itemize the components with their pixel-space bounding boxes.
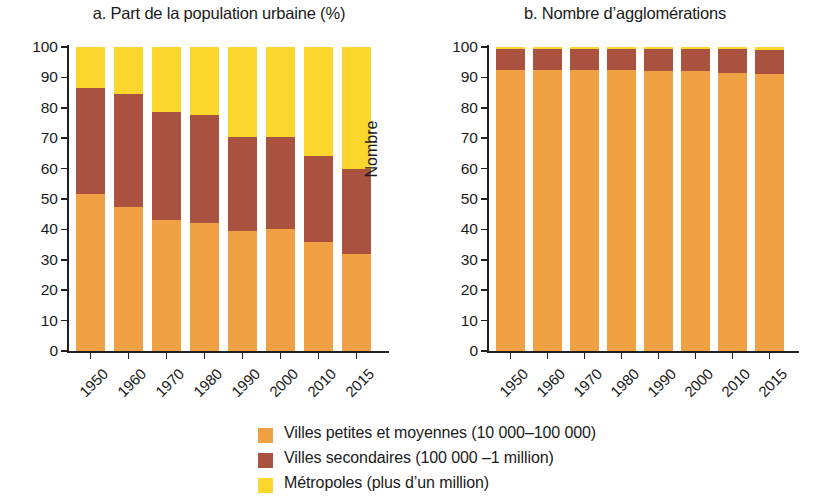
bar-segment-villes-petites-moyennes (266, 229, 295, 351)
bar-segment-villes-petites-moyennes (755, 74, 784, 351)
y-tick-label-10: 10 (461, 313, 478, 329)
y-tick-label-0: 0 (49, 343, 58, 359)
y-tick-70 (481, 137, 488, 139)
bar-segment-metropoles (76, 47, 105, 88)
bar-segment-metropoles (266, 47, 295, 137)
bar-2015 (755, 47, 784, 351)
panel-a-x-axis-line (67, 351, 389, 353)
bar-segment-villes-petites-moyennes (76, 194, 105, 351)
y-tick-label-100: 100 (32, 39, 58, 55)
y-tick-20 (481, 289, 488, 291)
bar-segment-villes-secondaires (570, 49, 599, 70)
bar-1960 (114, 47, 143, 351)
bar-segment-villes-secondaires (681, 49, 710, 71)
y-tick-20 (61, 289, 68, 291)
y-tick-label-20: 20 (461, 282, 478, 298)
y-tick-40 (61, 229, 68, 231)
bar-segment-villes-petites-moyennes (304, 242, 333, 351)
x-tick-1990 (242, 351, 244, 359)
bar-segment-metropoles (190, 47, 219, 115)
x-tick-1980 (204, 351, 206, 359)
y-tick-label-90: 90 (461, 70, 478, 86)
bar-2010 (718, 47, 747, 351)
chart-legend: Villes petites et moyennes (10 000–100 0… (0, 424, 820, 499)
y-tick-label-20: 20 (41, 282, 58, 298)
bar-segment-villes-secondaires (533, 49, 562, 70)
bar-segment-villes-secondaires (190, 115, 219, 223)
y-tick-label-80: 80 (41, 100, 58, 116)
y-tick-label-40: 40 (461, 222, 478, 238)
panel-a-plot-area: 0102030405060708090100195019601970198019… (68, 47, 388, 351)
y-tick-10 (61, 320, 68, 322)
bar-1980 (190, 47, 219, 351)
chart-panel-a: a. Part de la population urbaine (%) Par… (0, 0, 420, 420)
y-tick-label-70: 70 (461, 130, 478, 146)
figure: a. Part de la population urbaine (%) Par… (0, 0, 820, 502)
bar-segment-metropoles (304, 47, 333, 156)
bar-segment-villes-secondaires (228, 137, 257, 231)
legend-item: Métropoles (plus d’un million) (0, 474, 820, 499)
x-tick-2015 (356, 351, 358, 359)
y-tick-50 (481, 198, 488, 200)
legend-swatch-icon (258, 453, 273, 468)
bar-segment-villes-petites-moyennes (718, 73, 747, 351)
y-tick-40 (481, 229, 488, 231)
bar-1950 (496, 47, 525, 351)
bar-segment-villes-petites-moyennes (190, 223, 219, 351)
bar-2000 (266, 47, 295, 351)
x-tick-2000 (695, 351, 697, 359)
bar-segment-villes-secondaires (644, 49, 673, 71)
y-tick-60 (61, 168, 68, 170)
x-tick-1980 (621, 351, 623, 359)
bar-1970 (570, 47, 599, 351)
panel-b-x-axis-line (487, 351, 799, 353)
bar-segment-metropoles (152, 47, 181, 112)
y-tick-label-10: 10 (41, 313, 58, 329)
x-tick-1990 (658, 351, 660, 359)
bar-segment-villes-secondaires (266, 137, 295, 230)
bar-segment-villes-secondaires (607, 49, 636, 70)
y-tick-label-0: 0 (469, 343, 478, 359)
y-tick-label-50: 50 (41, 191, 58, 207)
y-tick-70 (61, 137, 68, 139)
y-tick-label-50: 50 (461, 191, 478, 207)
bar-1980 (607, 47, 636, 351)
y-tick-90 (61, 77, 68, 79)
legend-swatch-icon (258, 478, 273, 493)
panel-b-y-axis-title: Nombre (363, 89, 381, 209)
panel-a-title: a. Part de la population urbaine (%) (0, 4, 420, 23)
y-tick-30 (481, 259, 488, 261)
y-tick-label-90: 90 (41, 70, 58, 86)
x-tick-2015 (769, 351, 771, 359)
x-tick-2010 (732, 351, 734, 359)
bar-1970 (152, 47, 181, 351)
x-tick-1960 (547, 351, 549, 359)
legend-item: Villes petites et moyennes (10 000–100 0… (0, 424, 820, 449)
bar-2010 (304, 47, 333, 351)
y-tick-80 (481, 107, 488, 109)
bar-1990 (228, 47, 257, 351)
bar-segment-villes-secondaires (152, 112, 181, 220)
panel-b-plot-area: 0102030405060708090100195019601970198019… (488, 47, 798, 351)
bar-segment-villes-petites-moyennes (644, 71, 673, 351)
y-tick-30 (61, 259, 68, 261)
bar-1950 (76, 47, 105, 351)
legend-item: Villes secondaires (100 000 –1 million) (0, 449, 820, 474)
y-tick-label-40: 40 (41, 222, 58, 238)
y-tick-0 (61, 350, 68, 352)
y-tick-50 (61, 198, 68, 200)
bar-segment-metropoles (228, 47, 257, 137)
bar-segment-villes-secondaires (496, 49, 525, 70)
y-tick-label-60: 60 (461, 161, 478, 177)
bar-segment-villes-secondaires (76, 88, 105, 194)
legend-label: Métropoles (plus d’un million) (284, 474, 489, 492)
bar-segment-villes-petites-moyennes (228, 231, 257, 351)
y-tick-90 (481, 77, 488, 79)
chart-panel-b: b. Nombre d’agglomérations Nombre 010203… (420, 0, 820, 420)
y-tick-0 (481, 350, 488, 352)
y-tick-80 (61, 107, 68, 109)
x-tick-1950 (510, 351, 512, 359)
legend-label: Villes secondaires (100 000 –1 million) (284, 449, 554, 467)
bar-segment-villes-petites-moyennes (496, 70, 525, 351)
y-tick-60 (481, 168, 488, 170)
